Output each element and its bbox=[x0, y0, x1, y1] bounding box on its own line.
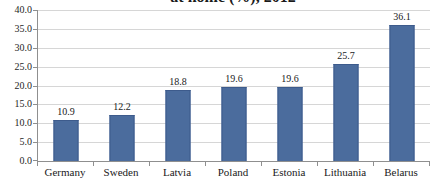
bar bbox=[390, 25, 415, 161]
bar-value-label: 25.7 bbox=[337, 51, 355, 61]
x-axis-label: Latvia bbox=[149, 166, 205, 179]
y-axis-label: 10.0 bbox=[15, 118, 33, 128]
bar bbox=[110, 115, 135, 161]
x-axis-label: Belarus bbox=[373, 166, 429, 179]
x-axis-label: Estonia bbox=[261, 166, 317, 179]
bar-slot: 18.8 bbox=[150, 10, 206, 161]
x-axis-label: Germany bbox=[37, 166, 93, 179]
bar-slot: 10.9 bbox=[38, 10, 94, 161]
y-tick bbox=[33, 67, 37, 68]
x-axis-label: Sweden bbox=[93, 166, 149, 179]
bars-row: 10.912.218.819.619.625.736.1 bbox=[38, 10, 430, 161]
y-tick bbox=[33, 142, 37, 143]
plot-area: 10.912.218.819.619.625.736.1 bbox=[37, 10, 430, 162]
bar-value-label: 12.2 bbox=[113, 102, 131, 112]
x-axis-label: Lithuania bbox=[317, 166, 373, 179]
chart-title: at home (%), 2012 bbox=[37, 0, 429, 6]
bar-value-label: 36.1 bbox=[393, 12, 411, 22]
bar-value-label: 10.9 bbox=[57, 107, 75, 117]
y-axis: 0.05.010.015.020.025.030.035.040.0 bbox=[0, 10, 32, 161]
bar-value-label: 19.6 bbox=[281, 74, 299, 84]
y-tick bbox=[33, 29, 37, 30]
y-tick bbox=[33, 123, 37, 124]
y-axis-label: 25.0 bbox=[15, 62, 33, 72]
y-axis-label: 40.0 bbox=[15, 5, 33, 15]
bar bbox=[54, 120, 79, 161]
y-tick bbox=[33, 10, 37, 11]
bar-slot: 36.1 bbox=[374, 10, 430, 161]
bar-value-label: 19.6 bbox=[225, 74, 243, 84]
y-tick bbox=[33, 160, 37, 161]
y-axis-label: 30.0 bbox=[15, 43, 33, 53]
y-tick bbox=[33, 86, 37, 87]
x-tick bbox=[429, 162, 430, 166]
y-axis-label: 0.0 bbox=[20, 156, 33, 166]
bar-chart: at home (%), 2012 0.05.010.015.020.025.0… bbox=[0, 0, 432, 185]
y-axis-label: 20.0 bbox=[15, 81, 33, 91]
bar bbox=[334, 64, 359, 161]
y-tick bbox=[33, 48, 37, 49]
x-axis-label: Poland bbox=[205, 166, 261, 179]
bar-value-label: 18.8 bbox=[169, 77, 187, 87]
bar bbox=[166, 90, 191, 161]
bar bbox=[222, 87, 247, 161]
y-axis-label: 35.0 bbox=[15, 24, 33, 34]
x-axis: GermanySwedenLatviaPolandEstoniaLithuani… bbox=[37, 166, 429, 179]
bar-slot: 19.6 bbox=[262, 10, 318, 161]
bar-slot: 25.7 bbox=[318, 10, 374, 161]
y-axis-label: 5.0 bbox=[20, 137, 33, 147]
y-tick bbox=[33, 104, 37, 105]
y-axis-label: 15.0 bbox=[15, 99, 33, 109]
bar-slot: 19.6 bbox=[206, 10, 262, 161]
bar-slot: 12.2 bbox=[94, 10, 150, 161]
bar bbox=[278, 87, 303, 161]
